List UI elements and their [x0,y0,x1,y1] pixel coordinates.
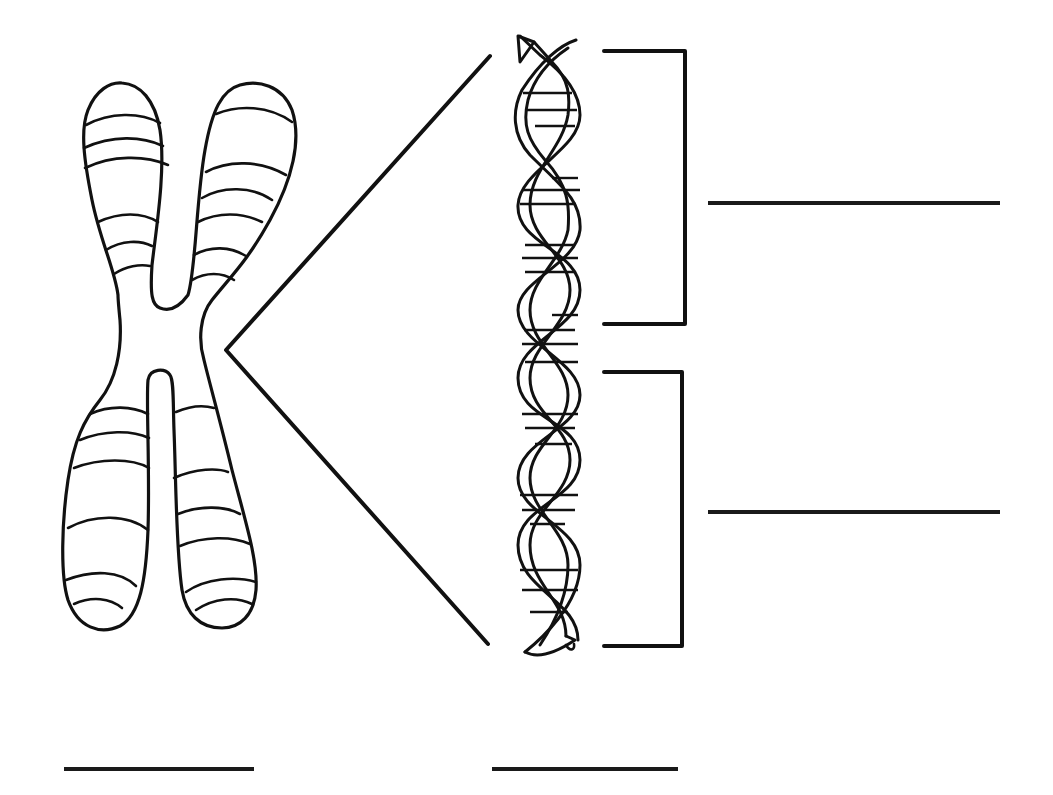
zoom-callout-lines [226,56,490,644]
upper-bracket [604,51,685,324]
chromosome-label-blank[interactable] [64,767,254,771]
chromosome [63,83,296,630]
diagram-drawing [0,0,1053,795]
lower-bracket [604,372,682,646]
diagram-canvas [0,0,1053,795]
dna-double-helix [515,36,580,655]
upper-bracket-label-blank[interactable] [708,201,1000,205]
helix-label-blank[interactable] [492,767,678,771]
lower-bracket-label-blank[interactable] [708,510,1000,514]
